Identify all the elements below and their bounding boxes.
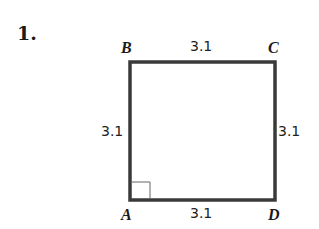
square-diagram: B C A D 3.1 3.1 3.1 3.1 <box>0 0 319 229</box>
vertex-label-d: D <box>267 206 280 223</box>
side-label-right: 3.1 <box>278 123 300 139</box>
side-label-bottom: 3.1 <box>190 205 212 221</box>
vertex-label-a: A <box>120 206 132 223</box>
vertex-label-c: C <box>268 39 279 56</box>
right-angle-mark <box>132 182 150 198</box>
side-label-top: 3.1 <box>190 38 212 54</box>
side-label-left: 3.1 <box>101 123 123 139</box>
square-abcd <box>130 62 275 200</box>
vertex-label-b: B <box>120 39 132 56</box>
